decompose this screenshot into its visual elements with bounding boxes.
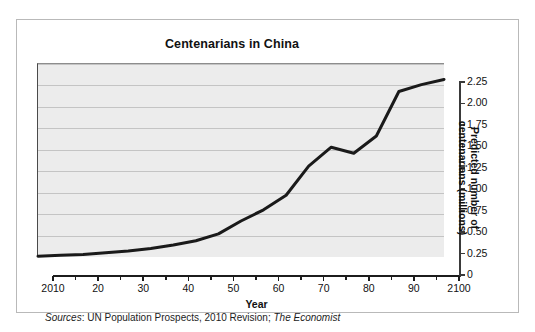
x-axis-tick bbox=[413, 276, 415, 281]
source-prefix: Sources bbox=[45, 312, 82, 323]
y-axis-title-line1: Predicted number of bbox=[469, 127, 481, 229]
x-axis-tick bbox=[165, 276, 167, 280]
x-axis-tick-label: 30 bbox=[137, 283, 149, 294]
x-axis-tick bbox=[278, 276, 280, 281]
series-line-chart bbox=[38, 64, 444, 257]
x-axis-title: Year bbox=[53, 298, 460, 310]
y-axis-title-line2: centenarians (millions) bbox=[458, 121, 470, 235]
y-axis-title: Predicted number of centenarians (millio… bbox=[446, 78, 480, 278]
x-axis-tick bbox=[188, 276, 190, 281]
chart-title: Centenarians in China bbox=[17, 37, 447, 51]
source-publication: The Economist bbox=[273, 312, 340, 323]
plot-area bbox=[37, 63, 444, 257]
x-axis-tick bbox=[210, 276, 212, 280]
series-polyline bbox=[38, 79, 444, 256]
source-note: Sources: UN Population Prospects, 2010 R… bbox=[45, 312, 340, 323]
x-axis-tick bbox=[142, 276, 144, 281]
x-axis-tick bbox=[120, 276, 122, 280]
x-axis-tick bbox=[300, 276, 302, 280]
x-axis-tick bbox=[436, 276, 438, 280]
x-axis-tick bbox=[52, 276, 54, 281]
x-axis-tick-label: 50 bbox=[228, 283, 240, 294]
x-axis-tick-label: 40 bbox=[182, 283, 194, 294]
x-axis-tick-label: 80 bbox=[363, 283, 375, 294]
x-axis-tick bbox=[323, 276, 325, 281]
chart-figure: Centenarians in China 201020304050607080… bbox=[16, 19, 519, 313]
x-axis-tick-label: 2100 bbox=[447, 283, 470, 294]
x-axis-tick-label: 90 bbox=[408, 283, 420, 294]
x-axis-tick-label: 20 bbox=[92, 283, 104, 294]
x-axis-tick-label: 2010 bbox=[41, 283, 64, 294]
x-axis-tick-label: 60 bbox=[273, 283, 285, 294]
x-axis-tick-label: 70 bbox=[318, 283, 330, 294]
source-body: UN Population Prospects, 2010 Revision; bbox=[87, 312, 273, 323]
x-axis-tick bbox=[255, 276, 257, 280]
x-axis-tick bbox=[233, 276, 235, 281]
x-axis-tick bbox=[345, 276, 347, 280]
x-axis-tick bbox=[391, 276, 393, 280]
x-axis-tick bbox=[97, 276, 99, 281]
x-axis-tick bbox=[368, 276, 370, 281]
x-axis-tick bbox=[75, 276, 77, 280]
